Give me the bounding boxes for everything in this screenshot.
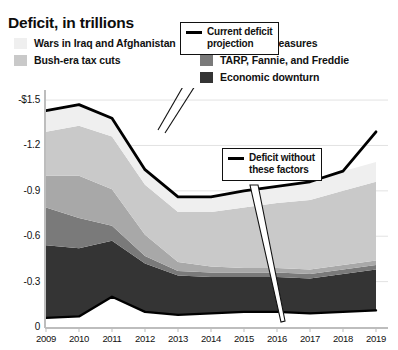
y-axis-tick-label: -0.9 xyxy=(0,185,40,196)
y-axis-tick-label: -$1.5 xyxy=(0,94,40,105)
x-axis-tick-label: 2015 xyxy=(227,333,261,344)
annotation-deficit-without-factors: Deficit without these factors xyxy=(222,148,322,181)
y-axis-tick-label: 0 xyxy=(0,321,40,332)
stacked-areas xyxy=(46,105,376,327)
x-axis-tick-label: 2016 xyxy=(260,333,294,344)
annotation-line-swatch-icon xyxy=(228,157,244,160)
legend-swatch-tarp-icon xyxy=(200,55,213,66)
legend-item-tarp: TARP, Fannie, and Freddie xyxy=(200,53,349,67)
legend-label-tarp: TARP, Fannie, and Freddie xyxy=(220,54,349,66)
y-axis-tick-label: -0.3 xyxy=(0,276,40,287)
x-axis-tick-label: 2013 xyxy=(161,333,195,344)
legend-label-wars: Wars in Iraq and Afghanistan xyxy=(34,37,176,49)
annotation-line-swatch-icon xyxy=(186,31,202,34)
legend-column-left: Wars in Iraq and Afghanistan Bush-era ta… xyxy=(14,36,176,70)
x-axis-tick-label: 2017 xyxy=(293,333,327,344)
legend-item-downturn: Economic downturn xyxy=(200,70,349,84)
annotation-current-text: Current deficit projection xyxy=(207,26,272,50)
legend-swatch-bush-tax-cuts-icon xyxy=(14,55,27,66)
area-chart-svg xyxy=(0,88,398,350)
x-axis-tick-label: 2014 xyxy=(194,333,228,344)
legend-item-wars: Wars in Iraq and Afghanistan xyxy=(14,36,176,50)
x-axis-tick-label: 2009 xyxy=(29,333,63,344)
page-title: Deficit, in trillions xyxy=(8,14,134,32)
legend-label-bush-tax-cuts: Bush-era tax cuts xyxy=(34,54,120,66)
annotation-without-text: Deficit without these factors xyxy=(249,152,315,176)
y-axis-tick-label: -1.2 xyxy=(0,139,40,150)
chart-page: Deficit, in trillions Wars in Iraq and A… xyxy=(0,0,398,350)
y-axis-tick-label: -0.6 xyxy=(0,230,40,241)
legend-swatch-wars-icon xyxy=(14,38,27,49)
x-axis-tick-label: 2010 xyxy=(62,333,96,344)
legend-swatch-downturn-icon xyxy=(200,72,213,83)
x-axis-tick-label: 2012 xyxy=(128,333,162,344)
chart-plot-area xyxy=(0,88,398,350)
x-axis-tick-label: 2018 xyxy=(326,333,360,344)
legend-label-downturn: Economic downturn xyxy=(220,71,319,83)
x-axis-tick-label: 2019 xyxy=(359,333,393,344)
x-axis-tick-label: 2011 xyxy=(95,333,129,344)
annotation-current-deficit-projection: Current deficit projection xyxy=(180,22,279,55)
legend-item-bush-tax-cuts: Bush-era tax cuts xyxy=(14,53,176,67)
